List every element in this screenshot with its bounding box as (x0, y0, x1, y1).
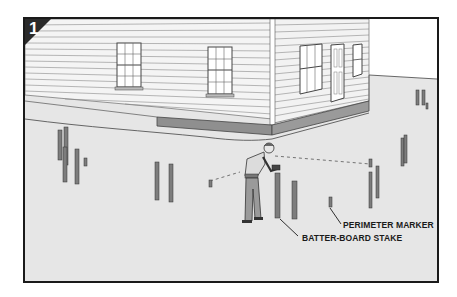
batter-board-stakes-right (369, 90, 428, 208)
perimeter-marker-left (209, 180, 212, 187)
perimeter-marker-leader (330, 208, 341, 224)
window-left-1 (115, 43, 143, 90)
illustration-frame: 1 PERIMETER MARKER BATTER-BOARD STAKE (23, 17, 439, 283)
batter-board-stakes-center (275, 173, 297, 219)
worker-figure (242, 143, 280, 223)
batter-board-stake-leader (280, 219, 298, 236)
string-line-right (275, 156, 370, 164)
sledgehammer (272, 165, 280, 170)
step-number: 1 (29, 19, 38, 39)
perimeter-marker (329, 197, 332, 207)
house-left-wall (25, 19, 272, 119)
door (331, 44, 344, 102)
window-right-1 (300, 44, 322, 94)
foundation-left (157, 117, 272, 135)
sky-area (369, 19, 437, 79)
window-left-2 (206, 47, 234, 97)
corner-trim (270, 19, 275, 125)
perimeter-marker-label: PERIMETER MARKER (343, 220, 434, 230)
string-line-left (210, 172, 240, 181)
batter-board-stakes-left (58, 127, 173, 202)
batter-board-stake-label: BATTER-BOARD STAKE (302, 233, 402, 243)
window-right-2 (353, 44, 362, 77)
